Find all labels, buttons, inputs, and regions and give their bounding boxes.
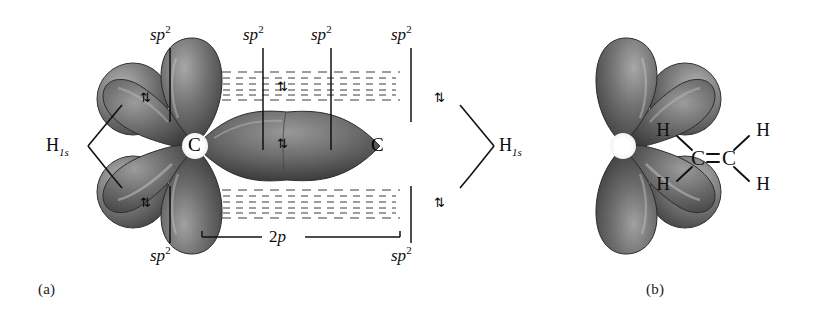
lewis-atom-c-left: C <box>691 146 705 170</box>
lewis-atom-c-right: C <box>722 146 736 170</box>
panel-caption-a: (a) <box>38 281 55 298</box>
panel-caption-b: (b) <box>646 281 664 298</box>
panel-b-lewis-structure: H H H H C C <box>0 0 818 327</box>
bond-h-upper-left <box>677 136 692 150</box>
lewis-atom-h-lower-left: H <box>656 173 670 194</box>
orbital-figure: sp2 sp2 sp2 sp2 sp2 sp2 2p H1s H1s C C ⇅… <box>0 0 818 327</box>
lewis-atom-labels: H H H H C C <box>656 119 770 194</box>
lewis-bonds <box>677 136 749 181</box>
lewis-atom-h-upper-left: H <box>656 119 670 140</box>
bond-h-lower-left <box>677 167 692 181</box>
bond-h-lower-right <box>734 167 749 181</box>
lewis-atom-h-upper-right: H <box>756 119 770 140</box>
bond-h-upper-right <box>734 136 749 150</box>
lewis-atom-h-lower-right: H <box>756 173 770 194</box>
